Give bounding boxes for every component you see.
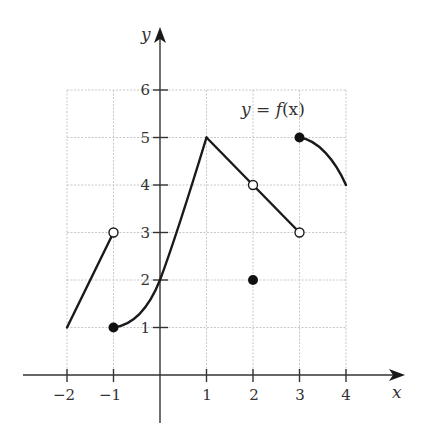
open-point (249, 181, 258, 190)
y-tick-label: 1 (140, 319, 150, 337)
open-point (109, 228, 118, 237)
closed-point (248, 275, 258, 285)
y-tick-label: 3 (140, 224, 150, 242)
y-tick-label: 5 (140, 129, 150, 147)
y-axis-label: y (140, 24, 151, 44)
x-tick-label: 3 (295, 386, 305, 404)
y-tick-label: 2 (140, 271, 150, 289)
y-tick-label: 4 (140, 176, 150, 194)
closed-point (109, 323, 119, 333)
x-tick-label: −1 (99, 386, 121, 404)
axes (23, 36, 396, 423)
y-tick-label: 6 (140, 81, 150, 99)
x-axis-label: x (392, 382, 402, 402)
x-tick-labels: −2 −1 1 2 3 4 (53, 386, 351, 404)
x-tick-label: −2 (53, 386, 75, 404)
function-graph: −2 −1 1 2 3 4 1 2 3 4 5 6 x y y = f(x) (0, 0, 430, 443)
closed-point (295, 133, 305, 143)
x-tick-label: 4 (341, 386, 351, 404)
function-label: y = f(x) (240, 99, 305, 119)
x-tick-label: 2 (249, 386, 259, 404)
open-point (295, 228, 304, 237)
segment-4 (300, 138, 347, 186)
x-tick-label: 1 (202, 386, 212, 404)
y-tick-labels: 1 2 3 4 5 6 (140, 81, 150, 337)
